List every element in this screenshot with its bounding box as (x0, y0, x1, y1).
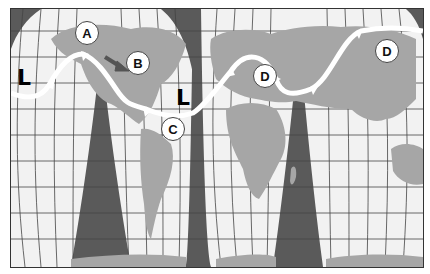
marker-d-europe: D (253, 64, 277, 88)
marker-d-asia: D (375, 39, 399, 63)
low-pressure-atlantic: L (176, 85, 190, 110)
marker-b: B (126, 51, 150, 75)
antarctica-west (71, 255, 186, 267)
low-pressure-pacific: L (17, 65, 31, 90)
marker-a: A (75, 21, 99, 45)
madagascar (290, 167, 296, 185)
world-map: A B C D D L L (10, 8, 424, 268)
map-graphic (11, 9, 423, 267)
marker-c: C (161, 117, 185, 141)
